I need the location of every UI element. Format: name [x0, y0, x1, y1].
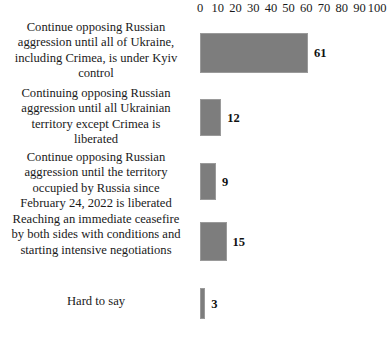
chart-plot-area: Continue opposing Russian aggression unt… — [0, 18, 387, 337]
chart-row: Continuing opposing Russian aggression u… — [0, 84, 387, 148]
chart-row: Continue opposing Russian aggression unt… — [0, 148, 387, 212]
x-axis-tick-label: 100 — [363, 1, 387, 15]
x-axis: 0102030405060708090100 — [0, 0, 387, 18]
bar — [200, 33, 308, 73]
category-label: Continuing opposing Russian aggression u… — [0, 86, 192, 148]
bar — [200, 99, 221, 136]
chart-row: Reaching an immediate ceasefire by both … — [0, 212, 387, 274]
bar — [200, 163, 216, 200]
bar — [200, 222, 227, 261]
category-label: Continue opposing Russian aggression unt… — [0, 20, 192, 82]
bar-value-label: 12 — [227, 111, 240, 125]
bar-value-label: 9 — [222, 175, 228, 189]
horizontal-bar-chart: 0102030405060708090100 Continue opposing… — [0, 0, 387, 337]
bar-value-label: 61 — [314, 46, 327, 60]
bar-value-label: 3 — [211, 297, 217, 311]
category-label: Reaching an immediate ceasefire by both … — [0, 212, 192, 258]
bar — [200, 288, 205, 319]
category-label: Continue opposing Russian aggression unt… — [0, 150, 192, 212]
category-label: Hard to say — [0, 294, 192, 309]
bar-value-label: 15 — [233, 235, 246, 249]
chart-row: Hard to say3 — [0, 280, 387, 330]
